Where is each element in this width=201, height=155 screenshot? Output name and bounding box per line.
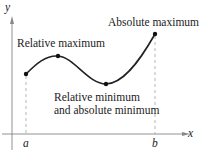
x-axis-label: x: [188, 127, 193, 140]
minimum-label-line1: Relative minimum: [54, 91, 140, 104]
label-b: b: [152, 137, 158, 150]
absolute-maximum-point: [153, 32, 157, 36]
minimum-point: [104, 82, 108, 86]
minimum-label-line2: and absolute minimum: [54, 104, 159, 117]
y-axis-arrow-icon: [10, 16, 14, 24]
endpoint-a: [24, 72, 28, 76]
relative-maximum-label: Relative maximum: [17, 37, 105, 50]
absolute-maximum-label: Absolute maximum: [108, 16, 199, 29]
y-axis-label: y: [5, 1, 10, 14]
relative-maximum-point: [56, 54, 60, 58]
label-a: a: [23, 137, 29, 150]
